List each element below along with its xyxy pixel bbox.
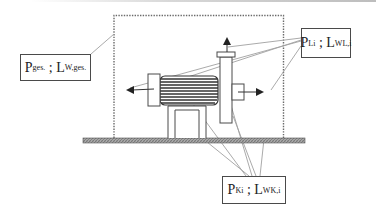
label-body-p: P — [228, 182, 236, 198]
label-air-p: P — [300, 35, 308, 51]
label-total-sound-power: Pges. ; LW,ges. — [20, 54, 91, 81]
label-air-p-sub: Li — [308, 39, 315, 48]
label-total-p-sub: ges. — [33, 63, 46, 72]
label-air-l-sub: WL,i — [335, 39, 352, 48]
label-air-l: L — [326, 35, 335, 51]
label-structure-borne-sound: PKi ; LWK,i — [222, 176, 286, 204]
motor-end-cap — [148, 74, 160, 106]
motor-base-foot — [168, 106, 206, 138]
motor-body — [160, 76, 218, 105]
label-body-l-sub: WK,i — [263, 186, 281, 195]
label-total-l-sub: W,ges. — [65, 63, 86, 72]
arrow-up-icon — [223, 37, 231, 52]
label-airborne-sound: PLi ; LWL,i — [301, 28, 351, 58]
label-total-l: L — [56, 60, 65, 76]
diagram-canvas: Pges. ; LW,ges. PLi ; LWL,i PKi ; LWK,i — [0, 0, 376, 215]
label-air-sep: ; — [315, 35, 326, 51]
label-body-sep: ; — [243, 182, 254, 198]
label-total-p: P — [25, 60, 33, 76]
label-body-l: L — [254, 182, 263, 198]
label-total-sep: ; — [45, 60, 56, 76]
label-body-p-sub: Ki — [235, 186, 243, 195]
ground-plane — [83, 138, 305, 143]
